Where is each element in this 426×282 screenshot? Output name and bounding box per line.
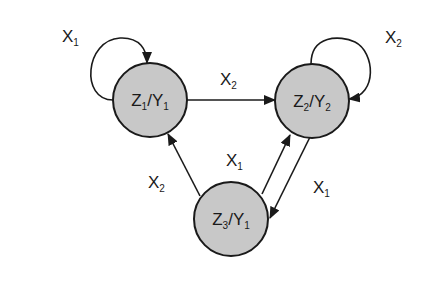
edge-label-s1-s1: X1 xyxy=(62,27,79,48)
edge-label-s2-s2: X2 xyxy=(385,28,402,49)
edge-s3-s1 xyxy=(168,134,200,196)
node-s3: Z3/Y1 xyxy=(194,182,268,256)
edge-s2-s3 xyxy=(270,137,310,218)
node-s1: Z1/Y1 xyxy=(113,63,187,137)
edge-label-s3-s1: X2 xyxy=(148,173,165,194)
node-s2: Z2/Y2 xyxy=(275,64,349,138)
edge-label-s2-s3: X1 xyxy=(313,178,330,199)
edge-label-s1-s2: X2 xyxy=(220,70,237,91)
edge-label-s3-s2: X1 xyxy=(226,151,243,172)
state-diagram: X1 X2 X2 X2 X1 X1 Z1/Y1 Z2/Y2 Z3/Y1 xyxy=(0,0,426,282)
